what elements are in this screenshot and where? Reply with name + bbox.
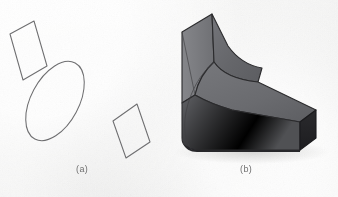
caption-panel-a: (a) [76, 164, 88, 174]
figure-drawing [0, 0, 338, 197]
panel-b-solid [174, 14, 330, 164]
caption-panel-b: (b) [240, 164, 252, 174]
figure-container: (a) (b) [0, 0, 338, 197]
ellipse-center-shape [14, 52, 97, 150]
panel-a-outlines [10, 21, 150, 158]
parallelogram-lower-right-shape [113, 104, 150, 158]
parallelogram-upper-left-shape [10, 21, 47, 80]
